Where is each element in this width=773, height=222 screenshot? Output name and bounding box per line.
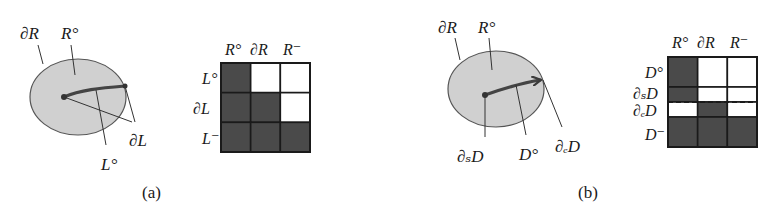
matrix-cell bbox=[668, 102, 698, 117]
matrix-cell bbox=[221, 122, 251, 152]
matrix-cell bbox=[280, 63, 310, 93]
matrix-cell bbox=[221, 93, 251, 123]
matrix-b-row-header-1: ∂ₛD bbox=[633, 85, 658, 102]
matrix-cell bbox=[280, 93, 310, 123]
matrix-cell bbox=[698, 102, 728, 117]
matrix-a-col-header-0: R° bbox=[224, 41, 242, 58]
matrix-cell bbox=[698, 57, 728, 87]
caption-a: (a) bbox=[142, 183, 161, 202]
leader-boundary-l-end bbox=[125, 86, 135, 122]
region-r-ellipse bbox=[30, 59, 126, 135]
matrix-cell bbox=[727, 87, 757, 102]
matrix-b-col-header-1: ∂R bbox=[697, 34, 715, 51]
label-interior-r: R° bbox=[60, 24, 78, 43]
panel-a: ∂R R° ∂L L° R° ∂R R⁻ L° ∂L L⁻ (a) bbox=[20, 24, 310, 202]
matrix-cell bbox=[221, 63, 251, 93]
matrix-a-cells bbox=[221, 63, 310, 152]
matrix-cell bbox=[668, 57, 698, 87]
matrix-b-col-header-0: R° bbox=[671, 34, 689, 51]
matrix-a-row-header-2: L⁻ bbox=[201, 130, 219, 147]
matrix-cell bbox=[251, 122, 281, 152]
matrix-b: R° ∂R R⁻ D° ∂ₛD ∂ₑD D⁻ bbox=[633, 34, 757, 147]
matrix-b-row-header-2: ∂ₑD bbox=[633, 102, 657, 119]
region-r-ellipse-b bbox=[448, 51, 544, 127]
matrix-cell bbox=[698, 117, 728, 147]
label-start-d: ∂ₛD bbox=[457, 147, 484, 166]
matrix-cell bbox=[668, 117, 698, 147]
matrix-cell bbox=[668, 87, 698, 102]
matrix-a: R° ∂R R⁻ L° ∂L L⁻ bbox=[193, 41, 310, 152]
matrix-b-row-header-0: D° bbox=[644, 64, 664, 81]
matrix-a-col-header-1: ∂R bbox=[250, 41, 268, 58]
matrix-cell bbox=[251, 93, 281, 123]
caption-b: (b) bbox=[578, 183, 598, 202]
label-interior-d: D° bbox=[518, 145, 538, 164]
leader-boundary-r-b bbox=[455, 38, 460, 60]
matrix-cell bbox=[280, 122, 310, 152]
label-interior-r-b: R° bbox=[477, 18, 495, 37]
label-interior-l: L° bbox=[100, 155, 117, 174]
label-boundary-l: ∂L bbox=[129, 131, 147, 150]
matrix-b-row-header-3: D⁻ bbox=[644, 126, 665, 143]
matrix-a-row-header-1: ∂L bbox=[193, 100, 210, 117]
label-boundary-r-b: ∂R bbox=[438, 18, 457, 37]
matrix-a-col-header-2: R⁻ bbox=[282, 41, 301, 58]
matrix-a-row-header-0: L° bbox=[201, 70, 218, 87]
figure: ∂R R° ∂L L° R° ∂R R⁻ L° ∂L L⁻ (a) ∂R R° … bbox=[0, 0, 773, 222]
panel-b: ∂R R° ∂ₛD D° ∂ₑD R° ∂R R⁻ D° ∂ₛD ∂ₑD D⁻ … bbox=[438, 18, 757, 202]
leader-boundary-r bbox=[38, 45, 43, 64]
label-end-d: ∂ₑD bbox=[555, 137, 581, 156]
matrix-cell bbox=[251, 63, 281, 93]
leader-end-d bbox=[543, 80, 562, 127]
label-boundary-r: ∂R bbox=[20, 24, 39, 43]
matrix-cell bbox=[727, 102, 757, 117]
matrix-cell bbox=[698, 87, 728, 102]
matrix-cell bbox=[727, 57, 757, 87]
matrix-cell bbox=[727, 117, 757, 147]
matrix-b-col-header-2: R⁻ bbox=[729, 34, 748, 51]
